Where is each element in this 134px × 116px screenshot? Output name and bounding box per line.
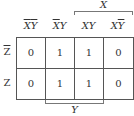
row-header-zbar: Z [0, 46, 14, 58]
kmap-cell: 1 [75, 69, 104, 100]
x-brace [74, 11, 133, 15]
column-header-x-y: XY [74, 20, 103, 32]
x-var: X [111, 20, 118, 31]
x-var: X [24, 20, 31, 31]
kmap-grid: 0 1 1 0 0 1 1 0 [16, 37, 134, 100]
y-brace-label: Y [45, 105, 104, 115]
y-var: Y [118, 20, 125, 31]
kmap-cell: 1 [75, 38, 104, 69]
kmap-cell: 0 [104, 69, 133, 100]
x-brace-label: X [74, 0, 133, 10]
x-var: X [82, 20, 89, 31]
kmap-cell: 1 [46, 69, 75, 100]
kmap-cell: 1 [46, 38, 75, 69]
column-header-x-ybar: XY [103, 20, 132, 32]
x-var: X [53, 20, 60, 31]
column-header-xbar-ybar: XY [16, 20, 45, 32]
kmap-cell: 0 [17, 38, 46, 69]
y-var: Y [31, 20, 38, 31]
kmap-cell: 0 [104, 38, 133, 69]
y-var: Y [60, 20, 67, 31]
y-var: Y [89, 20, 96, 31]
kmap-cell: 0 [17, 69, 46, 100]
column-header-xbar-y: XY [45, 20, 74, 32]
row-header-z: Z [0, 77, 14, 89]
